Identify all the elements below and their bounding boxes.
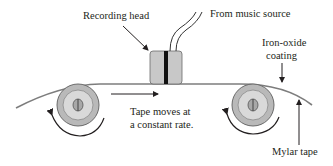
coating-label-line2: coating xyxy=(266,50,297,62)
diagram-graphics xyxy=(0,0,333,166)
music-source-label: From music source xyxy=(210,8,291,20)
coating-label-line1: Iron-oxide xyxy=(262,37,306,49)
mylar-label: Mylar tape xyxy=(272,146,318,158)
left-reel xyxy=(57,84,99,126)
tape-recorder-diagram: Recording head From music source Iron-ox… xyxy=(0,0,333,166)
tape-moves-label-line2: a constant rate. xyxy=(130,119,193,131)
music-source-wires xyxy=(170,12,196,51)
recording-head xyxy=(150,51,182,84)
recording-head-label: Recording head xyxy=(83,10,149,22)
right-reel xyxy=(232,84,274,126)
recording-head-pointer xyxy=(123,26,148,50)
tape-moves-label-line1: Tape moves at xyxy=(130,106,191,118)
